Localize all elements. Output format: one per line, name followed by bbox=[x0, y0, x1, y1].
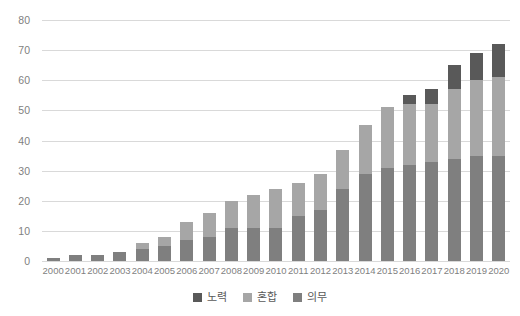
bar-segment-의무-2010 bbox=[269, 228, 282, 261]
bar-group-2014[interactable] bbox=[354, 20, 376, 261]
x-tick-label-2016: 2016 bbox=[399, 263, 421, 279]
plot-area bbox=[42, 20, 510, 261]
bar-group-2005[interactable] bbox=[153, 20, 175, 261]
bar-segment-의무-2017 bbox=[425, 162, 438, 261]
bar-group-2017[interactable] bbox=[421, 20, 443, 261]
x-axis: 2000200120022003200420052006200720082009… bbox=[42, 263, 510, 279]
y-tick-label-30: 30 bbox=[18, 165, 30, 176]
bar-segment-의무-2003 bbox=[113, 252, 126, 261]
bar-segment-혼합-2017 bbox=[425, 104, 438, 161]
bar-group-2010[interactable] bbox=[265, 20, 287, 261]
bar-group-2009[interactable] bbox=[243, 20, 265, 261]
bar-segment-의무-2020 bbox=[492, 156, 505, 261]
bar-segment-의무-2018 bbox=[448, 159, 461, 261]
bar-segment-혼합-2005 bbox=[158, 237, 171, 246]
bar-stack bbox=[269, 189, 282, 261]
legend-label: 혼합 bbox=[257, 292, 277, 303]
bar-segment-의무-2000 bbox=[47, 258, 60, 261]
x-tick-label-2003: 2003 bbox=[109, 263, 131, 279]
x-tick-label-2004: 2004 bbox=[131, 263, 153, 279]
legend-swatch-icon bbox=[293, 293, 302, 302]
bar-segment-혼합-2019 bbox=[470, 80, 483, 155]
bar-segment-의무-2015 bbox=[381, 168, 394, 261]
bar-segment-혼합-2011 bbox=[292, 183, 305, 216]
bar-group-2002[interactable] bbox=[87, 20, 109, 261]
legend-swatch-icon bbox=[243, 293, 252, 302]
legend-item-노력[interactable]: 노력 bbox=[193, 292, 227, 303]
bar-group-2004[interactable] bbox=[131, 20, 153, 261]
bar-group-2012[interactable] bbox=[309, 20, 331, 261]
x-tick-label-2017: 2017 bbox=[421, 263, 443, 279]
bar-stack bbox=[158, 237, 171, 261]
x-tick-label-2015: 2015 bbox=[376, 263, 398, 279]
bar-segment-혼합-2013 bbox=[336, 150, 349, 189]
bar-segment-의무-2011 bbox=[292, 216, 305, 261]
bar-group-2020[interactable] bbox=[488, 20, 510, 261]
x-tick-label-2000: 2000 bbox=[42, 263, 64, 279]
bar-group-2001[interactable] bbox=[64, 20, 86, 261]
bar-segment-의무-2008 bbox=[225, 228, 238, 261]
bar-stack bbox=[180, 222, 193, 261]
legend-item-의무[interactable]: 의무 bbox=[293, 292, 327, 303]
bar-group-2007[interactable] bbox=[198, 20, 220, 261]
y-tick-label-10: 10 bbox=[18, 226, 30, 237]
y-tick-label-0: 0 bbox=[24, 256, 30, 267]
bar-segment-혼합-2010 bbox=[269, 189, 282, 228]
x-tick-label-2005: 2005 bbox=[153, 263, 175, 279]
legend-item-혼합[interactable]: 혼합 bbox=[243, 292, 277, 303]
bar-segment-의무-2009 bbox=[247, 228, 260, 261]
bar-segment-노력-2020 bbox=[492, 44, 505, 77]
x-tick-label-2019: 2019 bbox=[465, 263, 487, 279]
bar-stack bbox=[203, 213, 216, 261]
bar-stack bbox=[448, 65, 461, 261]
bar-segment-의무-2005 bbox=[158, 246, 171, 261]
x-tick-label-2014: 2014 bbox=[354, 263, 376, 279]
bar-segment-혼합-2018 bbox=[448, 89, 461, 158]
bar-stack bbox=[292, 183, 305, 261]
bar-group-2019[interactable] bbox=[465, 20, 487, 261]
bar-group-2003[interactable] bbox=[109, 20, 131, 261]
bar-segment-의무-2012 bbox=[314, 210, 327, 261]
bar-segment-혼합-2014 bbox=[359, 125, 372, 173]
x-tick-label-2006: 2006 bbox=[176, 263, 198, 279]
bar-segment-의무-2014 bbox=[359, 174, 372, 261]
bar-segment-혼합-2008 bbox=[225, 201, 238, 228]
bar-stack bbox=[359, 125, 372, 261]
bar-segment-의무-2001 bbox=[69, 255, 82, 261]
bar-stack bbox=[47, 258, 60, 261]
bar-group-2013[interactable] bbox=[332, 20, 354, 261]
bar-segment-노력-2018 bbox=[448, 65, 461, 89]
bar-group-2015[interactable] bbox=[376, 20, 398, 261]
bar-group-2016[interactable] bbox=[399, 20, 421, 261]
bar-segment-혼합-2007 bbox=[203, 213, 216, 237]
bar-segment-의무-2004 bbox=[136, 249, 149, 261]
bar-segment-혼합-2009 bbox=[247, 195, 260, 228]
gridline-0 bbox=[42, 261, 510, 262]
bar-stack bbox=[225, 201, 238, 261]
bar-stack bbox=[113, 252, 126, 261]
bar-group-2018[interactable] bbox=[443, 20, 465, 261]
x-tick-label-2001: 2001 bbox=[64, 263, 86, 279]
bar-group-2008[interactable] bbox=[220, 20, 242, 261]
y-tick-label-70: 70 bbox=[18, 45, 30, 56]
x-tick-label-2013: 2013 bbox=[332, 263, 354, 279]
legend-swatch-icon bbox=[193, 293, 202, 302]
chart-legend: 노력혼합의무 bbox=[0, 292, 520, 303]
x-tick-label-2010: 2010 bbox=[265, 263, 287, 279]
bar-segment-혼합-2015 bbox=[381, 107, 394, 167]
x-tick-label-2011: 2011 bbox=[287, 263, 309, 279]
x-tick-label-2002: 2002 bbox=[87, 263, 109, 279]
y-tick-label-40: 40 bbox=[18, 135, 30, 146]
bar-group-2000[interactable] bbox=[42, 20, 64, 261]
x-tick-label-2008: 2008 bbox=[220, 263, 242, 279]
bar-stack bbox=[492, 44, 505, 261]
x-tick-label-2009: 2009 bbox=[243, 263, 265, 279]
bar-stack bbox=[403, 95, 416, 261]
bar-stack bbox=[314, 174, 327, 261]
bar-group-2006[interactable] bbox=[176, 20, 198, 261]
bar-group-2011[interactable] bbox=[287, 20, 309, 261]
bar-stack bbox=[425, 89, 438, 261]
y-tick-label-60: 60 bbox=[18, 75, 30, 86]
bar-segment-혼합-2012 bbox=[314, 174, 327, 210]
bar-segment-혼합-2020 bbox=[492, 77, 505, 155]
